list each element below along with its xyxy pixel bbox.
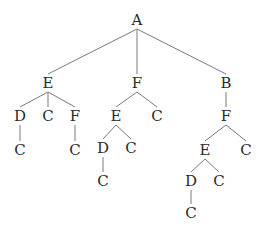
node-C: C <box>68 143 81 158</box>
node-C: C <box>150 109 163 124</box>
tree-edge <box>137 29 226 74</box>
tree-diagram: A E F B D C F C C E C D C C F E C D C C <box>0 0 265 231</box>
node-F-level1: F <box>131 76 143 91</box>
node-F: F <box>220 109 232 124</box>
tree-edge <box>20 92 48 107</box>
node-C: C <box>184 206 197 221</box>
tree-edge <box>205 159 219 172</box>
node-D: D <box>96 141 110 156</box>
node-C: C <box>41 109 54 124</box>
node-C: C <box>212 174 225 189</box>
node-C: C <box>239 143 252 158</box>
tree-edge <box>137 92 157 107</box>
node-E: E <box>199 143 212 158</box>
node-E: E <box>110 109 123 124</box>
node-E-level1: E <box>42 76 55 91</box>
tree-edge <box>48 92 75 107</box>
tree-edge <box>191 159 205 172</box>
node-C: C <box>96 174 109 189</box>
node-C: C <box>124 141 137 156</box>
node-D: D <box>184 174 198 189</box>
node-B-level1: B <box>219 76 232 91</box>
tree-edge <box>226 125 246 141</box>
node-C: C <box>13 143 26 158</box>
tree-edge <box>116 92 137 107</box>
node-D: D <box>13 109 27 124</box>
node-A-root: A <box>131 13 144 28</box>
node-F: F <box>69 109 81 124</box>
tree-edge <box>205 125 226 141</box>
tree-edge <box>116 125 131 139</box>
tree-edge <box>48 29 137 74</box>
tree-edge <box>103 125 116 139</box>
